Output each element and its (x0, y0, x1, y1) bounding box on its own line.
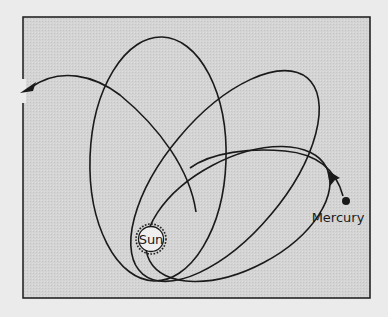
diagram-canvas: Mercury Sun (0, 0, 388, 317)
mercury-dot-icon (342, 197, 350, 205)
orbit-precession-diagram: Mercury Sun (0, 0, 388, 317)
mercury-label: Mercury (312, 210, 365, 225)
sun-label: Sun (139, 232, 164, 247)
